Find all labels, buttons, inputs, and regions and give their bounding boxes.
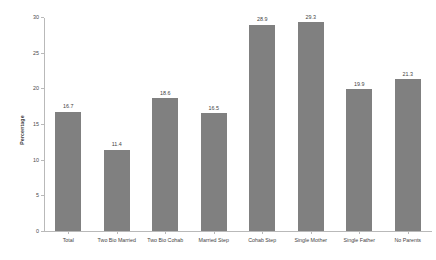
y-tick-mark — [41, 195, 44, 196]
y-tick-mark — [41, 17, 44, 18]
y-axis-tick: 5 — [30, 195, 44, 196]
bar-value-label: 16.7 — [63, 103, 74, 110]
y-tick-label: 5 — [36, 191, 39, 199]
x-tick-mark — [408, 232, 409, 234]
y-tick-mark — [41, 124, 44, 125]
x-axis-label: Total — [44, 236, 93, 244]
x-tick-mark — [262, 232, 263, 234]
bar-group[interactable]: 11.4 — [104, 141, 130, 231]
x-axis-line — [44, 231, 432, 232]
bar-value-label: 16.5 — [209, 105, 220, 112]
y-tick-mark — [41, 53, 44, 54]
x-tick-mark — [117, 232, 118, 234]
x-tick-mark — [68, 232, 69, 234]
x-axis-label: Single Father — [335, 236, 384, 244]
bar-group[interactable]: 19.9 — [346, 81, 372, 231]
x-tick-mark — [214, 232, 215, 234]
bar-group[interactable]: 16.7 — [55, 103, 81, 231]
bar-value-label: 19.9 — [354, 81, 365, 88]
bar-rect[interactable] — [395, 79, 421, 231]
x-axis-label: No Parents — [384, 236, 433, 244]
x-axis-label: Single Mother — [287, 236, 336, 244]
bar-value-label: 21.3 — [403, 71, 414, 78]
x-tick-mark — [165, 232, 166, 234]
bar-rect[interactable] — [55, 112, 81, 231]
y-axis-tick: 30 — [30, 17, 44, 18]
bar-chart-figure: Percentage 051015202530 16.711.418.616.5… — [0, 0, 436, 260]
x-axis-label: Cohab Step — [238, 236, 287, 244]
x-axis-label: Two Bio Cohab — [141, 236, 190, 244]
bar-group[interactable]: 28.9 — [249, 16, 275, 231]
bar-rect[interactable] — [104, 150, 130, 231]
bar-rect[interactable] — [201, 113, 227, 231]
x-tick-mark — [359, 232, 360, 234]
y-tick-mark — [41, 160, 44, 161]
y-axis-tick: 15 — [30, 124, 44, 125]
y-tick-label: 10 — [33, 156, 39, 164]
bar-value-label: 18.6 — [160, 90, 171, 97]
y-axis-tick: 10 — [30, 160, 44, 161]
y-tick-mark — [41, 88, 44, 89]
bar-value-label: 28.9 — [257, 16, 268, 23]
y-tick-label: 30 — [33, 13, 39, 21]
y-axis-tick: 25 — [30, 53, 44, 54]
bar-rect[interactable] — [249, 25, 275, 231]
y-axis-line — [44, 18, 45, 232]
y-tick-label: 20 — [33, 84, 39, 92]
bar-rect[interactable] — [346, 89, 372, 231]
bar-rect[interactable] — [298, 22, 324, 231]
y-tick-label: 15 — [33, 120, 39, 128]
bar-group[interactable]: 29.3 — [298, 14, 324, 232]
bar-group[interactable]: 16.5 — [201, 105, 227, 231]
y-axis-tick: 20 — [30, 88, 44, 89]
y-tick-label: 25 — [33, 49, 39, 57]
x-axis-label: Two Bio Married — [93, 236, 142, 244]
x-axis-label: Married Step — [190, 236, 239, 244]
bar-group[interactable]: 21.3 — [395, 71, 421, 231]
bar-value-label: 29.3 — [306, 14, 317, 21]
y-tick-mark — [41, 231, 44, 232]
bar-group[interactable]: 18.6 — [152, 90, 178, 231]
y-axis-tick: 0 — [30, 231, 44, 232]
bar-rect[interactable] — [152, 98, 178, 231]
x-tick-mark — [311, 232, 312, 234]
plot-area: 051015202530 16.711.418.616.528.929.319.… — [44, 18, 432, 232]
y-tick-label: 0 — [36, 227, 39, 235]
bar-value-label: 11.4 — [112, 141, 122, 148]
y-axis-title: Percentage — [14, 0, 30, 260]
